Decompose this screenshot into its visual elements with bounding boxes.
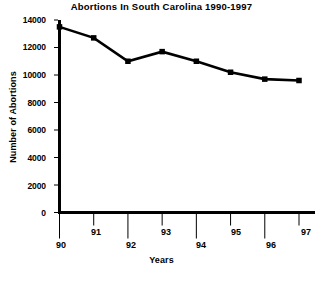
data-point-91 xyxy=(91,35,97,41)
chart-container: Abortions In South Carolina 1990-1997 Nu… xyxy=(0,0,323,281)
data-point-96 xyxy=(262,76,268,82)
data-point-97 xyxy=(296,78,302,84)
plot-area xyxy=(0,0,323,281)
x-axis-ticks xyxy=(60,214,300,239)
data-point-markers xyxy=(57,24,302,83)
data-point-94 xyxy=(194,59,200,65)
data-series-line xyxy=(60,27,300,81)
data-point-92 xyxy=(125,59,131,65)
data-point-95 xyxy=(228,70,234,76)
y-axis-ticks xyxy=(54,20,58,213)
data-point-90 xyxy=(57,24,63,30)
data-point-93 xyxy=(159,49,165,55)
